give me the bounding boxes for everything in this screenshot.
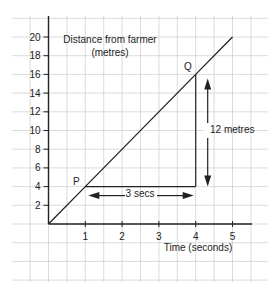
x-tick-label: 4 <box>193 231 199 242</box>
y-tick-label: 4 <box>35 181 41 192</box>
y-tick-label: 10 <box>29 125 41 136</box>
arrow-right-icon <box>183 192 194 199</box>
y-axis-title-line2: (metres) <box>91 47 128 58</box>
vertical-annotation: 12 metres <box>210 124 254 135</box>
distance-time-graph: 123452468101214161820 Distance from farm… <box>0 0 280 297</box>
y-tick-label: 6 <box>35 162 41 173</box>
x-tick-label: 5 <box>230 231 236 242</box>
arrow-left-icon <box>88 192 99 199</box>
horizontal-annotation: 3 secs <box>126 188 155 199</box>
x-tick-label: 2 <box>119 231 125 242</box>
y-tick-label: 20 <box>29 32 41 43</box>
point-p-label: P <box>73 176 80 187</box>
y-tick-label: 8 <box>35 144 41 155</box>
y-tick-label: 2 <box>35 200 41 211</box>
y-tick-label: 16 <box>29 69 41 80</box>
y-axis-title-line1: Distance from farmer <box>63 34 157 45</box>
arrow-up-icon <box>204 78 211 89</box>
y-tick-label: 18 <box>29 50 41 61</box>
arrow-down-icon <box>204 176 211 187</box>
point-q-label: Q <box>184 61 192 72</box>
y-tick-label: 12 <box>29 106 41 117</box>
x-tick-label: 3 <box>156 231 162 242</box>
y-tick-label: 14 <box>29 88 41 99</box>
x-axis-title: Time (seconds) <box>164 242 233 253</box>
x-tick-label: 1 <box>83 231 89 242</box>
